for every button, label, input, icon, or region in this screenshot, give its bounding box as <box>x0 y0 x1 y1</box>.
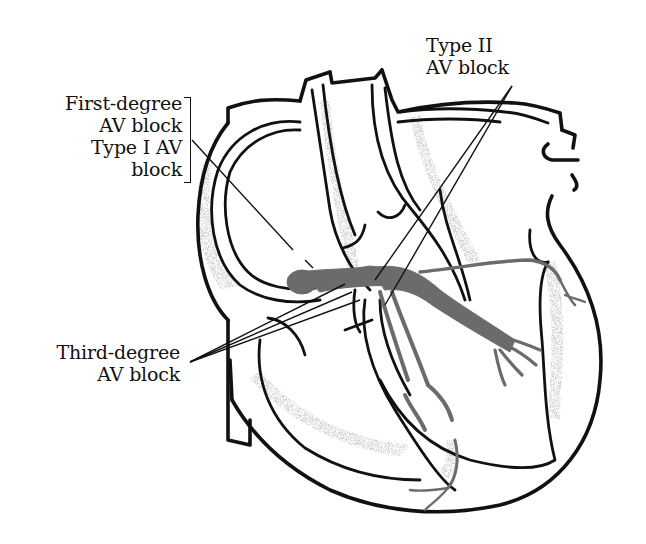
label-type-two-line2: AV block <box>426 56 509 78</box>
label-first-and-type-one-av-block: First-degree AV block Type I AV block <box>65 92 182 180</box>
pointer-first-degree-end <box>305 260 313 268</box>
label-type-two-av-block: Type II AV block <box>426 34 509 78</box>
label-first-degree-line1: First-degree <box>65 92 182 114</box>
heart-diagram: First-degree AV block Type I AV block Ty… <box>0 0 646 544</box>
heart-illustration <box>0 0 646 544</box>
label-bracket <box>184 97 191 183</box>
label-type-one-line2: block <box>65 158 182 180</box>
label-third-degree-line2: AV block <box>57 363 180 385</box>
stipple-shading <box>197 100 563 480</box>
label-type-one-line1: Type I AV <box>65 136 182 158</box>
label-first-degree-line2: AV block <box>65 114 182 136</box>
bundle-of-his <box>370 266 515 352</box>
label-type-two-line1: Type II <box>426 34 509 56</box>
label-third-degree-av-block: Third-degree AV block <box>57 341 180 385</box>
label-third-degree-line1: Third-degree <box>57 341 180 363</box>
pointer-third-degree-c <box>190 300 360 362</box>
